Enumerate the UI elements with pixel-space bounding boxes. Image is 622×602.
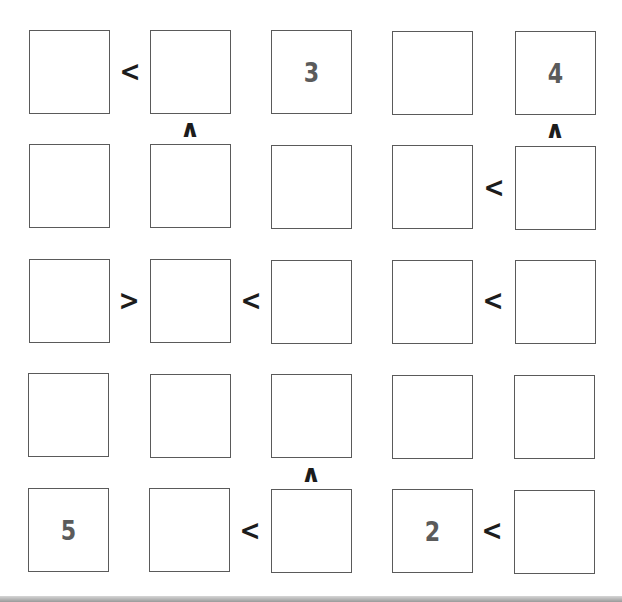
given-value: 4 bbox=[548, 58, 563, 89]
page-bottom-edge bbox=[0, 596, 622, 602]
up-constraint-c1-r0-r1: ∧ bbox=[174, 117, 206, 141]
cell-r1-c1[interactable] bbox=[150, 144, 231, 228]
cell-r3-c2[interactable] bbox=[271, 374, 352, 458]
cell-r4-c4[interactable] bbox=[514, 490, 595, 574]
less-than-r4-c1-c2: < bbox=[237, 517, 264, 545]
cell-r3-c0[interactable] bbox=[28, 373, 109, 457]
cell-r1-c0[interactable] bbox=[29, 144, 110, 228]
cell-r3-c3[interactable] bbox=[392, 375, 473, 459]
cell-r4-c2[interactable] bbox=[271, 489, 352, 573]
less-than-r2-c1-c2: < bbox=[238, 287, 265, 315]
greater-than-r2-c0-c1: > bbox=[116, 287, 143, 315]
given-value: 2 bbox=[425, 516, 440, 547]
up-constraint-c4-r0-r1: ∧ bbox=[539, 118, 571, 142]
cell-r1-c3[interactable] bbox=[392, 145, 473, 229]
cell-r0-c0[interactable] bbox=[29, 30, 110, 114]
cell-r4-c0: 5 bbox=[28, 488, 109, 572]
up-constraint-c2-r3-r4: ∧ bbox=[295, 462, 327, 486]
given-value: 5 bbox=[61, 515, 76, 546]
less-than-r4-c3-c4: < bbox=[479, 517, 506, 545]
cell-r2-c2[interactable] bbox=[271, 260, 352, 344]
cell-r0-c3[interactable] bbox=[392, 31, 473, 115]
cell-r0-c2: 3 bbox=[271, 30, 352, 114]
cell-r3-c1[interactable] bbox=[150, 374, 231, 458]
cell-r4-c1[interactable] bbox=[149, 488, 230, 572]
cell-r2-c0[interactable] bbox=[29, 259, 110, 343]
cell-r3-c4[interactable] bbox=[514, 375, 595, 459]
cell-r0-c4: 4 bbox=[515, 31, 596, 115]
cell-r1-c4[interactable] bbox=[515, 146, 596, 230]
futoshiki-board: 3 4 5 2 < < > < < < < ∧ ∧ ∧ bbox=[0, 0, 622, 596]
cell-r2-c3[interactable] bbox=[392, 260, 473, 344]
given-value: 3 bbox=[304, 57, 319, 88]
cell-r1-c2[interactable] bbox=[271, 145, 352, 229]
cell-r2-c4[interactable] bbox=[515, 260, 596, 344]
cell-r4-c3: 2 bbox=[392, 489, 473, 573]
less-than-r1-c3-c4: < bbox=[481, 174, 508, 202]
less-than-r2-c3-c4: < bbox=[480, 287, 507, 315]
less-than-r0-c0-c1: < bbox=[117, 58, 144, 86]
cell-r0-c1[interactable] bbox=[150, 30, 231, 114]
cell-r2-c1[interactable] bbox=[150, 259, 231, 343]
